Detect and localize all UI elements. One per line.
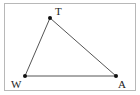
vertex-a-label: A	[118, 78, 126, 90]
edge-t-w	[25, 18, 50, 76]
vertex-t-point	[48, 16, 52, 20]
vertex-w-point	[23, 74, 27, 78]
edge-a-t	[50, 18, 116, 76]
triangle-diagram: T W A	[0, 0, 140, 95]
vertex-t-label: T	[55, 5, 62, 17]
vertex-w-label: W	[11, 78, 22, 90]
